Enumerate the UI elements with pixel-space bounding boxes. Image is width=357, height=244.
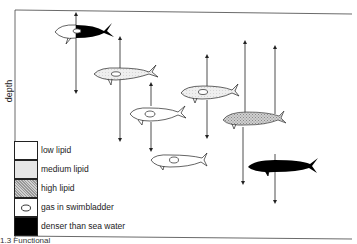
swimbladder-icon <box>145 111 155 117</box>
swimbladder-icon <box>112 72 121 76</box>
legend: low lipid medium lipid high lipid gas in… <box>14 141 214 236</box>
legend-label: high lipid <box>41 183 75 193</box>
legend-label: denser than sea water <box>41 221 125 231</box>
fish-dense <box>248 154 318 202</box>
legend-item-gas: gas in swimbladder <box>14 198 214 217</box>
fish-medium-lipid-2 <box>181 56 239 137</box>
legend-item-low-lipid: low lipid <box>14 141 214 160</box>
legend-item-dense: denser than sea water <box>14 217 214 236</box>
swimbladder-icon <box>73 29 81 33</box>
diagram: depth low lipid medium lipid high lipid … <box>0 0 357 244</box>
high-lipid-swatch <box>14 179 38 198</box>
fish-medium-lipid-1 <box>94 38 158 140</box>
legend-item-high-lipid: high lipid <box>14 179 214 198</box>
swimbladder-icon <box>199 90 208 95</box>
y-axis-label: depth <box>4 80 14 103</box>
gas-swatch <box>14 198 38 217</box>
swimbladder-icon <box>15 199 37 216</box>
legend-label: low lipid <box>41 145 71 155</box>
low-lipid-swatch <box>14 141 38 160</box>
legend-item-medium-lipid: medium lipid <box>14 160 214 179</box>
figure-caption: 1.3 Functional <box>0 236 50 244</box>
fish-low-lipid-dense-tail <box>55 14 114 92</box>
legend-label: medium lipid <box>41 164 89 174</box>
medium-lipid-swatch <box>14 160 38 179</box>
legend-label: gas in swimbladder <box>41 202 114 212</box>
dense-swatch <box>14 217 38 236</box>
